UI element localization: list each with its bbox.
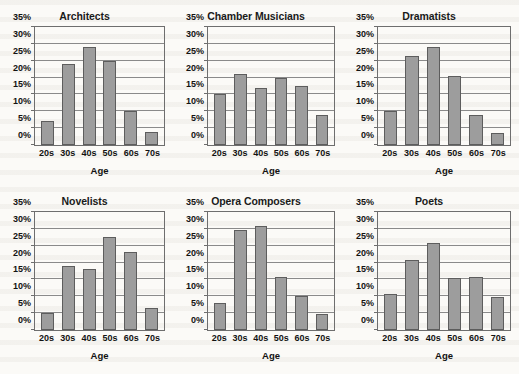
y-axis-tick-label: 0% — [191, 315, 204, 325]
plot-area: 0%5%10%15%20%25%30%35% — [377, 211, 511, 331]
bar — [316, 115, 329, 145]
bar — [103, 237, 116, 330]
bar-series — [378, 212, 510, 330]
bar-slot — [120, 212, 141, 330]
y-axis-tick-label: 15% — [356, 264, 374, 274]
bar — [234, 230, 247, 330]
y-axis-tick-label: 10% — [186, 281, 204, 291]
bar — [275, 78, 288, 145]
bar — [255, 88, 268, 145]
x-axis-tick-label: 60s — [121, 333, 142, 343]
x-axis-tick-label: 60s — [121, 148, 142, 158]
y-axis-tick-label: 15% — [186, 264, 204, 274]
bar-slot — [423, 27, 444, 145]
y-axis-tick-label: 0% — [18, 130, 31, 140]
y-axis-tick-label: 35% — [186, 197, 204, 207]
bar — [214, 303, 227, 330]
bar — [448, 76, 461, 145]
bar — [62, 64, 75, 145]
y-axis-tick-label: 5% — [191, 113, 204, 123]
chart-panel: Chamber Musicians0%5%10%15%20%25%30%35%2… — [173, 0, 343, 185]
bar — [469, 277, 482, 330]
plot-area: 0%5%10%15%20%25%30%35% — [207, 211, 335, 331]
x-axis-tick-label: 50s — [271, 148, 292, 158]
bar-slot — [401, 212, 422, 330]
x-axis-tick-label: 30s — [230, 333, 251, 343]
x-axis-tick-labels: 20s30s40s50s60s70s — [377, 333, 511, 343]
x-axis-tick-label: 50s — [271, 333, 292, 343]
bar-slot — [79, 212, 100, 330]
bar-slot — [230, 212, 250, 330]
bar-slot — [291, 212, 311, 330]
plot-area: 0%5%10%15%20%25%30%35% — [34, 211, 165, 331]
x-axis-tick-label: 60s — [466, 148, 488, 158]
x-axis-tick-label: 50s — [100, 148, 121, 158]
bar-slot — [487, 212, 508, 330]
y-axis-tick-label: 15% — [13, 79, 31, 89]
y-axis-tick-label: 5% — [361, 113, 374, 123]
chart-panel: Opera Composers0%5%10%15%20%25%30%35%20s… — [173, 185, 343, 374]
bar-slot — [210, 27, 230, 145]
bar-slot — [120, 27, 141, 145]
x-axis-tick-label: 60s — [292, 148, 313, 158]
bar-series — [378, 27, 510, 145]
bar — [295, 86, 308, 145]
x-axis-tick-label: 30s — [57, 333, 78, 343]
x-axis-tick-label: 30s — [230, 148, 251, 158]
bar-slot — [312, 27, 332, 145]
y-axis-tick-label: 30% — [356, 29, 374, 39]
bar — [384, 111, 397, 145]
x-axis-tick-label: 20s — [379, 333, 401, 343]
y-axis-tick-label: 0% — [361, 315, 374, 325]
bar-slot — [380, 212, 401, 330]
y-axis-tick-label: 20% — [13, 248, 31, 258]
x-axis-tick-labels: 20s30s40s50s60s70s — [34, 148, 165, 158]
y-axis-tick-label: 25% — [186, 231, 204, 241]
y-axis-tick-label: 10% — [356, 96, 374, 106]
x-axis-tick-label: 60s — [292, 333, 313, 343]
x-axis-tick-label: 40s — [422, 333, 444, 343]
bar — [427, 243, 440, 330]
y-axis-tick-label: 10% — [356, 281, 374, 291]
bar-slot — [487, 27, 508, 145]
x-axis-tick-label: 60s — [466, 333, 488, 343]
bar-slot — [37, 212, 58, 330]
chart-grid: Architects0%5%10%15%20%25%30%35%20s30s40… — [0, 0, 519, 374]
bar-slot — [251, 212, 271, 330]
y-axis-tick-label: 25% — [13, 231, 31, 241]
y-axis-tick-label: 10% — [186, 96, 204, 106]
x-axis-tick-label: 70s — [142, 333, 163, 343]
bar-slot — [312, 212, 332, 330]
chart-panel: Poets0%5%10%15%20%25%30%35%20s30s40s50s6… — [343, 185, 519, 374]
bar — [275, 277, 288, 330]
x-axis-tick-label: 70s — [312, 333, 333, 343]
plot-frame: 0%5%10%15%20%25%30%35% — [34, 211, 165, 331]
x-axis-tick-label: 40s — [78, 333, 99, 343]
plot-area: 0%5%10%15%20%25%30%35% — [34, 26, 165, 146]
bar-series — [208, 212, 334, 330]
bar — [62, 266, 75, 330]
x-axis-tick-labels: 20s30s40s50s60s70s — [377, 148, 511, 158]
bar — [405, 260, 418, 330]
bar-slot — [444, 212, 465, 330]
bar — [384, 294, 397, 330]
y-axis-tick-label: 0% — [18, 315, 31, 325]
bar-series — [35, 27, 164, 145]
bar — [103, 61, 116, 145]
bar-slot — [99, 27, 120, 145]
x-axis-tick-label: 50s — [444, 333, 466, 343]
y-axis-tick-label: 25% — [186, 46, 204, 56]
bar — [448, 278, 461, 330]
chart-panel: Architects0%5%10%15%20%25%30%35%20s30s40… — [0, 0, 173, 185]
bar — [234, 74, 247, 145]
y-axis-tick-label: 25% — [356, 231, 374, 241]
bar — [405, 56, 418, 145]
bar — [124, 111, 137, 145]
bar — [316, 314, 329, 330]
x-axis-tick-label: 40s — [422, 148, 444, 158]
y-axis-tick-label: 20% — [356, 63, 374, 73]
x-axis-title: Age — [34, 350, 165, 361]
bar — [295, 296, 308, 330]
y-axis-tick-label: 30% — [356, 214, 374, 224]
x-axis-tick-label: 70s — [142, 148, 163, 158]
